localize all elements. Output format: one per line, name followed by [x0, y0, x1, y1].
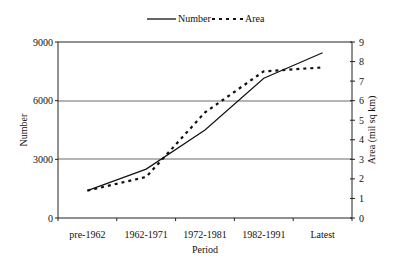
y-tick-label: 3000 — [33, 154, 53, 165]
x-tick-label: 1962-1971 — [125, 229, 168, 240]
y2-tick-label: 2 — [359, 173, 364, 184]
legend-area-label: Area — [245, 13, 265, 24]
y2-tick-label: 6 — [359, 95, 364, 106]
y-axis-title: Number — [18, 113, 29, 146]
y2-tick-label: 4 — [359, 134, 364, 145]
x-axis-ticks: pre-19621962-19711972-19811982-1991Lates… — [58, 218, 352, 240]
y2-tick-label: 3 — [359, 154, 364, 165]
x-tick-label: pre-1962 — [69, 229, 105, 240]
y-tick-label: 0 — [48, 213, 53, 224]
y-tick-label: 9000 — [33, 37, 53, 48]
y2-tick-label: 5 — [359, 115, 364, 126]
series-area-line — [87, 67, 322, 190]
x-tick-label: Latest — [310, 229, 335, 240]
y2-tick-label: 9 — [359, 37, 364, 48]
x-tick-label: 1972-1981 — [183, 229, 226, 240]
y-tick-label: 6000 — [33, 95, 53, 106]
x-tick-label: 1982-1991 — [242, 229, 285, 240]
legend: Number Area — [147, 13, 265, 24]
y2-tick-label: 0 — [359, 213, 364, 224]
legend-number-label: Number — [178, 13, 211, 24]
y2-tick-label: 1 — [359, 193, 364, 204]
x-axis-title: Period — [192, 244, 218, 255]
left-axis-ticks: 0300060009000 — [33, 37, 58, 224]
line-chart: Number Area 0300060009000 0123456789 pre… — [0, 0, 395, 269]
y2-tick-label: 7 — [359, 76, 364, 87]
y2-axis-title: Area (mil sq km) — [366, 96, 378, 165]
series-number-line — [87, 53, 322, 191]
y2-tick-label: 8 — [359, 56, 364, 67]
